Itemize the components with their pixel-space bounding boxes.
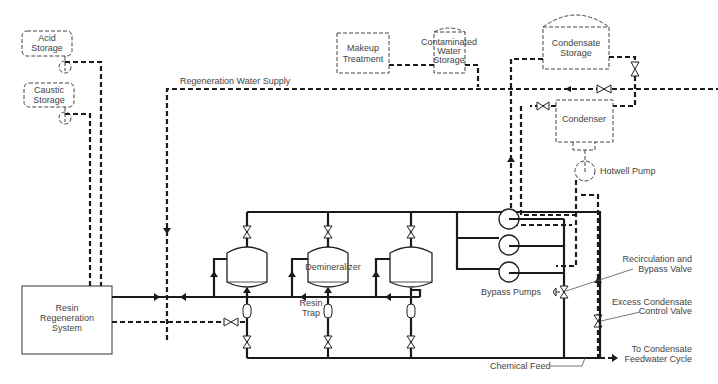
caustic-storage: Caustic Storage	[24, 83, 74, 107]
left-arrow-icon	[385, 293, 391, 301]
to-feedwater-label-1: To Condensate	[631, 344, 692, 354]
resin-trap-label-2: Trap	[302, 308, 320, 318]
recirculation-bypass-valve-icon	[554, 286, 569, 298]
caustic-storage-label-2: Storage	[33, 95, 65, 105]
resin-regen-label-3: System	[52, 323, 82, 333]
valve-icon	[243, 336, 251, 348]
recirc-valve-label-2: Bypass Valve	[638, 264, 692, 274]
cond-to-condenser-line	[613, 76, 635, 106]
excess-valve-leader	[601, 312, 640, 321]
valve-icon	[243, 226, 251, 238]
caustic-feed-line	[65, 114, 90, 287]
valve-icon	[324, 226, 332, 238]
flow-diagram: Acid Storage Caustic Storage Resin Regen…	[0, 0, 718, 384]
contaminated-water-storage: Contaminated Water Storage	[421, 28, 477, 73]
valve-icon	[631, 62, 639, 76]
up-arrow-icon	[507, 156, 515, 162]
right-arrow-icon	[565, 86, 571, 92]
resin-regen-label-2: Regeneration	[40, 313, 94, 323]
resin-regeneration-system: Resin Regeneration System	[22, 286, 112, 354]
acid-feed-line	[65, 62, 101, 287]
acid-storage-label-2: Storage	[31, 43, 63, 53]
right-arrow-icon	[154, 293, 160, 301]
demineralizer-vessel-3	[372, 212, 432, 358]
caustic-pump-icon	[59, 107, 71, 124]
valve-icon	[224, 318, 238, 326]
valve-icon	[537, 102, 549, 110]
acid-storage: Acid Storage	[22, 31, 72, 56]
caustic-storage-label-1: Caustic	[34, 85, 65, 95]
to-feedwater-label-2: Feedwater Cycle	[624, 354, 692, 364]
valve-icon	[407, 336, 415, 348]
condensate-storage: Condensate Storage	[543, 15, 609, 69]
acid-pump-icon	[59, 56, 71, 73]
valve-icon	[597, 85, 611, 93]
hotwell-pump-icon	[575, 150, 595, 181]
bypass-pumps	[457, 209, 564, 358]
demineralizer-vessel-2	[288, 212, 348, 358]
resin-trap-label-1: Resin	[299, 298, 322, 308]
left-arrow-icon	[180, 293, 186, 301]
cond-storage-label-2: Storage	[560, 48, 592, 58]
recirc-valve-label-1: Recirculation and	[622, 254, 692, 264]
regen-water-supply-label: Regeneration Water Supply	[180, 76, 291, 86]
hotwell-main-line	[581, 195, 598, 358]
chemical-feed-label: Chemical Feed	[490, 361, 551, 371]
acid-storage-label-1: Acid	[38, 33, 56, 43]
cws-label-3: Storage	[433, 55, 465, 65]
excess-valve-label-2: Control Valve	[639, 306, 692, 316]
resin-regen-label-1: Resin	[55, 303, 78, 313]
demineralizer-label: Demineralizer	[305, 262, 361, 272]
valve-icon	[324, 336, 332, 348]
condenser: Condenser	[556, 100, 613, 150]
hotwell-pump-label: Hotwell Pump	[600, 166, 656, 176]
bypass-pumps-label: Bypass Pumps	[481, 287, 542, 297]
demineralizer-vessel-1	[210, 212, 267, 358]
makeup-treatment: Makeup Treatment	[337, 33, 389, 73]
down-arrow-icon	[163, 228, 171, 234]
cws-drop-line	[465, 65, 478, 87]
condenser-label: Condenser	[562, 114, 606, 124]
right-arrow-icon	[612, 354, 618, 362]
makeup-label-2: Treatment	[343, 54, 384, 64]
cond-storage-label-1: Condensate	[552, 38, 601, 48]
valve-icon	[407, 226, 415, 238]
makeup-label-1: Makeup	[347, 43, 379, 53]
hotwell-discharge-line	[556, 180, 576, 266]
chemical-feed-leader	[550, 358, 585, 366]
